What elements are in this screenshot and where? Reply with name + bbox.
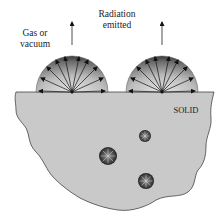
internal-sphere-small xyxy=(139,130,151,142)
radiation-diagram: Gas or vacuum Radiation emitted SOLID xyxy=(0,0,220,216)
medium-label-line2: vacuum xyxy=(20,39,51,49)
radiation-label-line2: emitted xyxy=(103,20,132,30)
radiation-label-line1: Radiation xyxy=(99,9,136,19)
internal-sphere-medium xyxy=(138,173,154,189)
internal-sphere-large xyxy=(99,147,117,165)
right-hemisphere xyxy=(126,22,198,94)
medium-label-line1: Gas or xyxy=(22,28,48,38)
solid-label: SOLID xyxy=(173,105,198,115)
